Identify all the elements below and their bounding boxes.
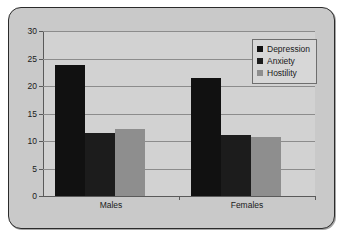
y-axis-tick-label: 10 <box>11 137 37 146</box>
y-axis-tick-mark <box>39 86 43 87</box>
x-axis-tick-mark <box>179 196 180 200</box>
bar-females-anxiety <box>221 135 251 196</box>
y-axis-tick-label: 15 <box>11 110 37 119</box>
y-axis-tick-labels: 051015202530 <box>8 7 37 229</box>
y-axis-tick-label: 30 <box>11 27 37 36</box>
legend-item-anxiety: Anxiety <box>257 55 310 67</box>
y-axis-tick-mark <box>39 141 43 142</box>
legend-label: Depression <box>267 45 310 54</box>
y-axis-tick-mark <box>39 196 43 197</box>
bar-females-depression <box>191 78 221 196</box>
legend-swatch-icon <box>257 58 263 64</box>
chart-legend: DepressionAnxietyHostility <box>252 39 317 84</box>
gridline <box>43 31 315 32</box>
bar-males-hostility <box>115 129 145 196</box>
legend-label: Hostility <box>267 69 297 78</box>
y-axis-tick-label: 25 <box>11 55 37 64</box>
bar-chart: 051015202530 MalesFemales DepressionAnxi… <box>8 7 335 229</box>
legend-item-hostility: Hostility <box>257 67 310 79</box>
legend-item-depression: Depression <box>257 43 310 55</box>
legend-swatch-icon <box>257 70 263 76</box>
y-axis-tick-label: 0 <box>11 192 37 201</box>
y-axis-tick-label: 20 <box>11 82 37 91</box>
y-axis-tick-label: 5 <box>11 165 37 174</box>
y-axis-tick-mark <box>39 114 43 115</box>
legend-swatch-icon <box>257 46 263 52</box>
x-axis-label-males: Males <box>43 201 179 210</box>
y-axis-tick-mark <box>39 169 43 170</box>
bar-females-hostility <box>251 137 281 196</box>
x-axis-end-tick <box>315 196 316 200</box>
bar-males-depression <box>55 65 85 196</box>
legend-label: Anxiety <box>267 57 295 66</box>
y-axis-tick-mark <box>39 31 43 32</box>
bar-males-anxiety <box>85 133 115 196</box>
y-axis-tick-mark <box>39 59 43 60</box>
x-axis-label-females: Females <box>179 201 315 210</box>
